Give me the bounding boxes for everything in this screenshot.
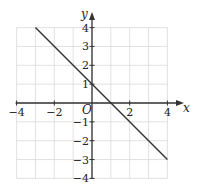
y-tick-label: 3 — [82, 40, 89, 53]
x-tick-label: −2 — [46, 106, 62, 119]
line-series — [35, 28, 167, 160]
coordinate-plane: −4−2244321−1−2−3−4 x y O — [0, 0, 198, 188]
x-tick-label: 4 — [164, 106, 171, 119]
y-tick-label: 4 — [82, 22, 89, 35]
x-tick-label: −4 — [8, 106, 24, 119]
y-tick-label: 2 — [82, 59, 89, 72]
x-axis-label: x — [183, 101, 190, 115]
y-tick-label: −4 — [73, 172, 89, 185]
x-tick-label: 2 — [126, 106, 133, 119]
axes — [16, 12, 184, 178]
y-tick-label: −3 — [73, 154, 89, 167]
y-axis-label: y — [80, 7, 88, 21]
y-tick-label: −2 — [73, 135, 89, 148]
y-axis-arrow-icon — [89, 12, 95, 20]
y-tick-label: −1 — [73, 116, 89, 129]
origin-label: O — [82, 103, 92, 117]
data-series — [35, 28, 167, 160]
